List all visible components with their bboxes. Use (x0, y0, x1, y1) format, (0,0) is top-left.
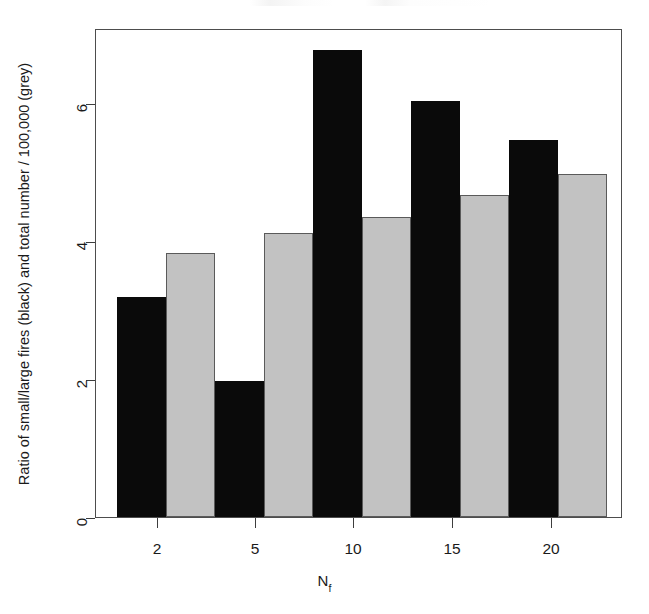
plot-panel (95, 29, 622, 518)
x-tick-mark (353, 518, 354, 528)
bar-grey-nf-5 (264, 233, 313, 517)
x-axis-title-base: N (318, 572, 329, 589)
bar-chart-figure: Ratio of small/large fires (black) and t… (0, 0, 649, 614)
x-tick-mark (452, 518, 453, 528)
bar-grey-nf-20 (558, 174, 607, 517)
x-tick-label: 10 (344, 541, 361, 557)
x-axis-title: Nf (0, 572, 649, 592)
bar-black-nf-5 (215, 381, 264, 517)
x-tick-label: 2 (153, 541, 162, 557)
y-tick-label: 2 (74, 380, 89, 388)
x-tick-mark (551, 518, 552, 528)
bar-black-nf-20 (509, 140, 558, 517)
bar-grey-nf-15 (460, 195, 509, 517)
bar-black-nf-2 (117, 297, 166, 517)
bar-black-nf-15 (411, 101, 460, 517)
bar-grey-nf-2 (166, 253, 215, 517)
x-tick-mark (157, 518, 158, 528)
x-tick-mark (255, 518, 256, 528)
x-axis: Nf 25101520 (0, 518, 649, 614)
x-tick-label: 5 (251, 541, 260, 557)
bar-grey-nf-10 (362, 217, 411, 517)
x-axis-title-subscript: f (328, 582, 331, 594)
x-tick-label: 15 (443, 541, 460, 557)
y-tick-label: 6 (74, 104, 89, 112)
bar-black-nf-10 (313, 50, 362, 517)
bars-layer (96, 30, 621, 517)
x-tick-label: 20 (542, 541, 559, 557)
y-tick-label: 4 (74, 242, 89, 250)
scan-artifact (250, 0, 500, 6)
